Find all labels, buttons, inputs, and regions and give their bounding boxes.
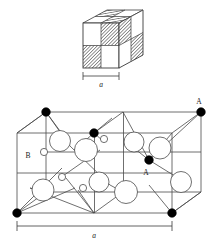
- cell-dimension-line: [17, 221, 172, 231]
- label-site-a-top-right: A: [196, 97, 202, 106]
- front-face-octant-0-1: [101, 23, 119, 46]
- label-site-a-interior: A: [143, 168, 149, 177]
- small-atom: [100, 135, 107, 142]
- small-atom: [58, 173, 65, 180]
- corner-atom-back-top-left: [42, 108, 51, 117]
- site-atom-interior-a: [145, 156, 154, 165]
- small-atom: [40, 148, 47, 155]
- large-atom-group: [32, 131, 192, 204]
- bond-1: [17, 112, 46, 133]
- large-atom: [89, 172, 109, 192]
- large-atom: [171, 172, 192, 193]
- large-atom: [115, 181, 138, 204]
- bond-22: [172, 192, 201, 213]
- large-atom: [32, 179, 54, 201]
- figure-canvas: A A B a a: [0, 0, 220, 242]
- unit-cell-panel: A A B: [13, 97, 206, 231]
- corner-atom-front-bottom-left: [13, 209, 22, 218]
- cube-dimension-label: a: [99, 80, 103, 89]
- label-site-b: B: [25, 151, 30, 160]
- small-atom: [79, 184, 86, 191]
- corner-atom-back-top-right: [197, 108, 206, 117]
- large-atom: [124, 132, 144, 152]
- cell-dimension-label: a: [92, 231, 96, 240]
- front-face-octant-0-0: [83, 23, 101, 46]
- site-atom-front-top-center: [90, 129, 99, 138]
- corner-atom-front-bottom-right: [168, 209, 177, 218]
- front-face-octant-1-0: [83, 46, 101, 69]
- large-atom: [50, 131, 71, 152]
- front-face-octant-1-1: [101, 46, 119, 69]
- crystal-structure-figure: A A B a a: [0, 0, 220, 242]
- large-atom: [149, 137, 171, 159]
- cube-dimension-line: [83, 72, 119, 80]
- bond-21: [149, 185, 172, 213]
- top-cube-panel: [83, 10, 143, 80]
- cell-edge-tr: [172, 112, 201, 133]
- large-atom: [75, 139, 98, 162]
- cube-front-face: [83, 23, 119, 68]
